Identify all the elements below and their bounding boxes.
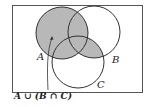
caption: A ∪ (B ∩ C) (14, 92, 72, 101)
label-c: C (97, 80, 105, 90)
label-b: B (112, 55, 119, 65)
label-a: A (37, 52, 44, 62)
